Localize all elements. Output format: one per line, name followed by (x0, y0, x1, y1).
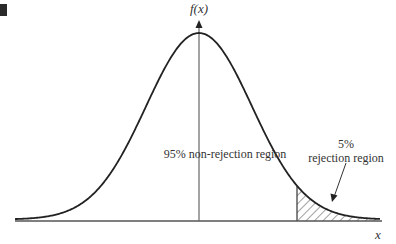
rejection-region-label: rejection region (308, 151, 384, 165)
pointer-arrow-icon (331, 194, 338, 203)
x-axis-label: x (374, 227, 381, 242)
normal-distribution-diagram: f(x) x 95% non-rejection region 5% rejec… (0, 0, 396, 244)
density-curve (15, 33, 380, 219)
y-axis-label: f(x) (190, 1, 208, 16)
rejection-region-hatch (297, 186, 380, 221)
tail-percent-label: 5% (338, 137, 354, 151)
y-axis-arrow-icon (196, 20, 203, 28)
pointer-arrow-line (334, 163, 346, 197)
non-rejection-region-label: 95% non-rejection region (164, 147, 287, 161)
